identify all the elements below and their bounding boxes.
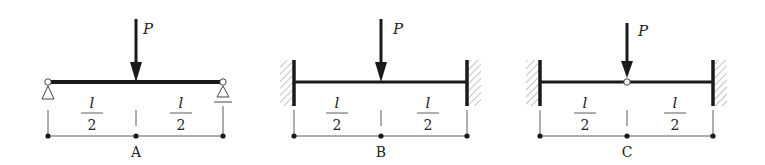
- hinge-icon: [624, 79, 630, 85]
- svg-text:l: l: [583, 94, 588, 112]
- dimension-line: [291, 110, 469, 139]
- load-arrow-icon: [375, 19, 387, 82]
- svg-text:2: 2: [88, 117, 97, 133]
- load-label: P: [392, 20, 404, 38]
- beam-case-b: P l 2 l 2 B: [280, 19, 481, 160]
- half-span-label-right: l 2: [170, 94, 192, 133]
- beam-case-a: P l 2 l 2: [42, 19, 232, 160]
- half-span-label-left: l 2: [326, 94, 348, 133]
- svg-text:l: l: [90, 94, 95, 112]
- load-label: P: [142, 20, 154, 38]
- svg-text:l: l: [673, 94, 678, 112]
- svg-text:2: 2: [581, 117, 590, 133]
- fixed-support-left-icon: [526, 60, 540, 106]
- fixed-support-left-icon: [280, 60, 294, 106]
- case-caption: C: [622, 144, 633, 160]
- half-span-label-left: l 2: [81, 94, 103, 133]
- svg-text:2: 2: [333, 117, 342, 133]
- fixed-support-right-icon: [713, 60, 727, 106]
- svg-text:2: 2: [177, 117, 186, 133]
- svg-text:l: l: [335, 94, 340, 112]
- case-caption: B: [376, 144, 386, 160]
- beam-diagrams-figure: P l 2 l 2: [0, 0, 765, 165]
- half-span-label-right: l 2: [664, 94, 686, 133]
- load-label: P: [637, 22, 649, 40]
- svg-text:2: 2: [671, 117, 680, 133]
- half-span-label-right: l 2: [417, 94, 439, 133]
- svg-text:2: 2: [424, 117, 433, 133]
- load-arrow-icon: [130, 19, 142, 82]
- dimension-line: [45, 106, 225, 139]
- svg-text:l: l: [179, 94, 184, 112]
- beam-case-c: P l 2 l 2 C: [526, 22, 727, 160]
- case-caption: A: [130, 144, 142, 160]
- fixed-support-right-icon: [467, 60, 481, 106]
- half-span-label-left: l 2: [574, 94, 596, 133]
- svg-text:l: l: [426, 94, 431, 112]
- dimension-line: [537, 110, 715, 139]
- load-arrow-icon: [621, 23, 633, 78]
